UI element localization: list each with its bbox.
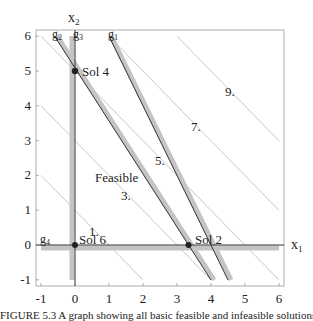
figure-caption: FIGURE 5.3 A graph showing all basic fea… [0,310,313,321]
svg-text:-1: -1 [20,272,31,287]
x-axis-label: x1 [291,237,303,254]
svg-text:2: 2 [25,167,32,182]
x-ticks [41,283,279,286]
feasible-region-label: Feasible [95,170,139,185]
svg-text:5: 5 [242,291,249,306]
svg-text:0: 0 [72,291,79,306]
label-g1: g1 [108,27,118,42]
svg-text:0: 0 [25,237,32,252]
svg-text:4: 4 [208,291,215,306]
point-sol2 [186,242,192,248]
point-sol4 [72,68,78,74]
y-ticks [36,36,39,280]
contour-label-5: 5. [155,153,165,168]
label-g4: g4 [40,232,50,247]
svg-text:3: 3 [25,133,32,148]
label-g2: g2 [52,27,62,42]
svg-text:1: 1 [25,202,32,217]
x-tick-labels: -1 0 1 2 3 4 5 6 [36,291,283,306]
label-sol2: Sol 2 [195,232,222,247]
svg-text:2: 2 [140,291,147,306]
svg-text:5: 5 [25,63,32,78]
svg-text:3: 3 [174,291,181,306]
contour-label-3: 3. [121,188,131,203]
y-tick-labels: -1 0 1 2 3 4 5 6 [20,28,31,287]
contour-label-9: 9. [225,84,235,99]
svg-text:1: 1 [106,291,113,306]
contour-label-7: 7. [191,119,201,134]
svg-text:4: 4 [25,98,32,113]
svg-text:6: 6 [276,291,283,306]
y-axis-label: x2 [68,10,80,27]
contour-label-1: 1. [89,224,99,239]
svg-text:6: 6 [25,28,32,43]
chart: -1 0 1 2 3 4 5 6 -1 0 1 2 3 4 5 6 x2 x1 … [0,0,313,321]
point-sol6 [72,242,78,248]
svg-text:-1: -1 [36,291,47,306]
label-sol4: Sol 4 [82,64,110,79]
label-g3: g3 [73,27,83,42]
